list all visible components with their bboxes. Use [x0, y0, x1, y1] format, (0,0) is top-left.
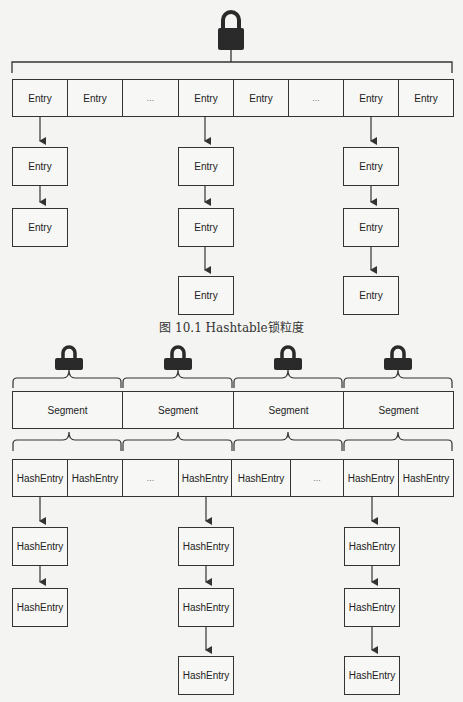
chain-node: HashEntry: [344, 656, 400, 695]
hashentry-cell: HashEntry: [178, 459, 232, 497]
chain-node: HashEntry: [178, 527, 234, 566]
chain-node: Entry: [178, 276, 234, 315]
hashentry-cell: HashEntry: [398, 459, 454, 497]
chain-node: HashEntry: [12, 527, 68, 566]
lock-icon: [384, 347, 412, 370]
chain-node: Entry: [178, 208, 234, 247]
entry-cell: Entry: [398, 79, 454, 117]
hashentry-cell: HashEntry: [343, 459, 399, 497]
chain-node: Entry: [178, 147, 234, 186]
entry-cell: Entry: [67, 79, 123, 117]
entry-cell: Entry: [178, 79, 234, 117]
segment-cell: Segment: [12, 391, 123, 429]
segment-cell: Segment: [343, 391, 454, 429]
lock-icon: [164, 347, 192, 370]
segment-cell: Segment: [233, 391, 344, 429]
chain-node: HashEntry: [344, 588, 400, 627]
hashentry-braces: [13, 432, 452, 451]
chain-node: HashEntry: [12, 588, 68, 627]
chain-node: HashEntry: [178, 656, 234, 695]
chain-node: HashEntry: [178, 588, 234, 627]
ellipsis-cell: ...: [288, 79, 344, 117]
chain-node: Entry: [343, 276, 399, 315]
bracket: [12, 50, 452, 73]
entry-cell: Entry: [233, 79, 289, 117]
lock-icon: [274, 347, 302, 370]
chain-node: HashEntry: [344, 527, 400, 566]
lock-icon: [218, 12, 244, 50]
entry-cell: Entry: [343, 79, 399, 117]
hashentry-cell: HashEntry: [231, 459, 291, 497]
hashentry-cell: HashEntry: [12, 459, 68, 497]
ellipsis-cell: ...: [122, 79, 179, 117]
hashentry-cell: HashEntry: [67, 459, 123, 497]
chain-node: Entry: [12, 147, 68, 186]
ellipsis-cell: ...: [290, 459, 344, 497]
chain-node: Entry: [12, 208, 68, 247]
figure-caption: 图 10.1 Hashtable锁粒度: [0, 318, 463, 335]
ellipsis-cell: ...: [122, 459, 179, 497]
lock-icon: [55, 347, 83, 370]
chain-node: Entry: [343, 208, 399, 247]
chain-node: Entry: [343, 147, 399, 186]
segment-cell: Segment: [122, 391, 234, 429]
entry-cell: Entry: [12, 79, 68, 117]
segment-braces: [13, 370, 452, 388]
